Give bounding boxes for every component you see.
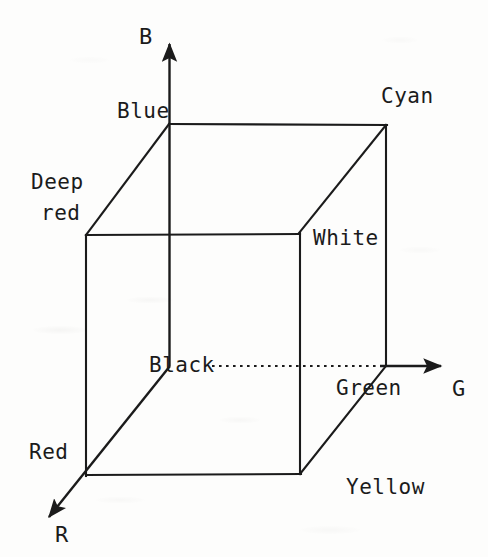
vertex-label-deep-red-line2: red (41, 203, 80, 224)
edge-cyan-white (299, 125, 386, 233)
vertex-label-white: White (313, 228, 379, 249)
axis-lines (49, 44, 441, 517)
vertex-label-red: Red (29, 442, 68, 463)
edge-blue-cyan (169, 124, 387, 125)
axis-label-r: R (55, 524, 69, 545)
vertex-label-black: Black (149, 355, 215, 376)
vertex-label-yellow: Yellow (346, 477, 425, 498)
axis-label-g: G (452, 378, 466, 399)
vertex-label-deep-red-line1: Deep (31, 172, 84, 193)
cube-edges (86, 124, 387, 476)
vertex-label-cyan: Cyan (381, 86, 434, 107)
edge-deepred-white (86, 234, 300, 235)
figure-canvas: B G R Blue Cyan Deep red White Black Gre… (0, 0, 488, 557)
axis-label-b: B (139, 26, 153, 47)
edge-red-yellow (86, 474, 301, 475)
vertex-label-green: Green (336, 378, 402, 399)
edge-blue-deepred (86, 124, 169, 235)
vertex-label-blue: Blue (117, 101, 170, 122)
